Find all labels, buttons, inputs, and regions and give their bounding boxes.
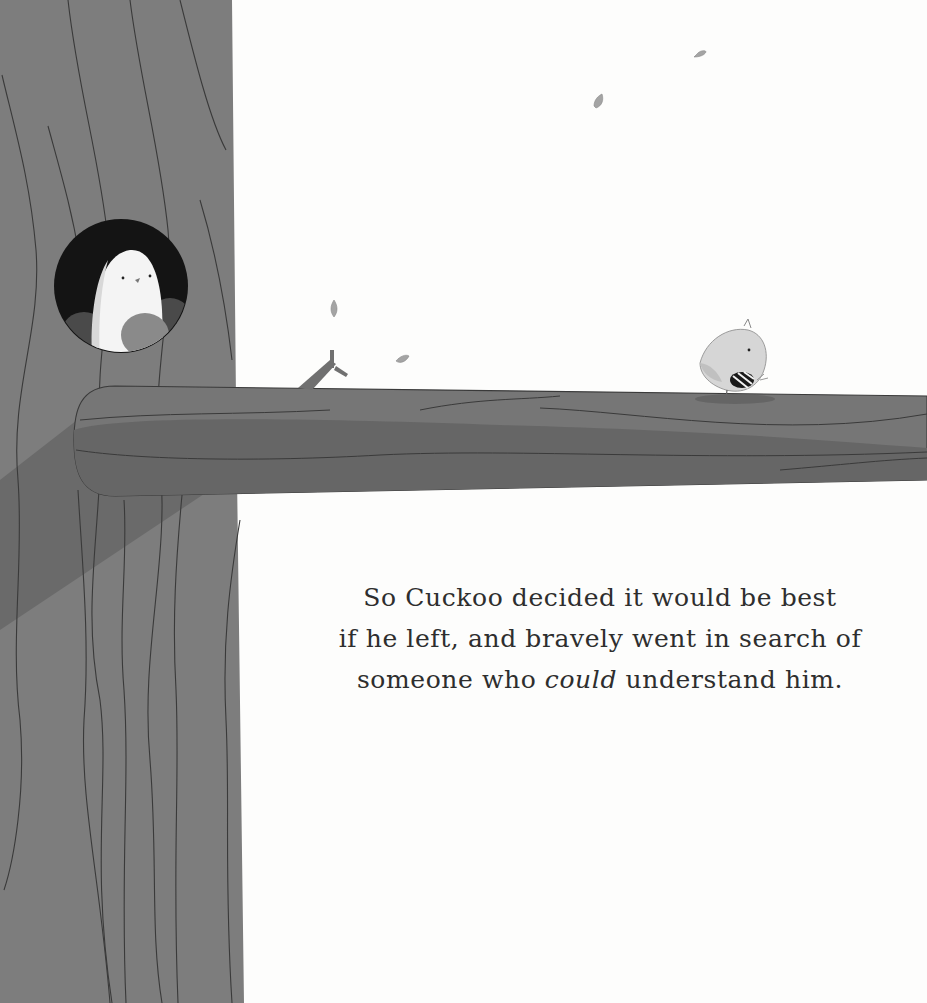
story-emphasis-could: could — [545, 665, 617, 694]
story-line-2: if he left, and bravely went in search o… — [300, 618, 900, 659]
cuckoo-bird — [695, 319, 775, 404]
falling-leaves — [331, 51, 706, 363]
leaf-3 — [331, 300, 337, 317]
leaf-4 — [396, 355, 409, 362]
story-line-1: So Cuckoo decided it would be best — [300, 577, 900, 618]
story-line-3-start: someone who — [357, 665, 545, 694]
tree-trunk — [0, 0, 244, 1003]
story-line-3: someone who could understand him. — [300, 659, 900, 700]
story-text: So Cuckoo decided it would be best if he… — [300, 577, 900, 700]
illustration — [0, 0, 927, 1003]
striped-belly — [730, 372, 754, 388]
leaf-1 — [694, 51, 706, 57]
leaf-2 — [594, 94, 603, 108]
story-line-3-end: understand him. — [617, 665, 843, 694]
